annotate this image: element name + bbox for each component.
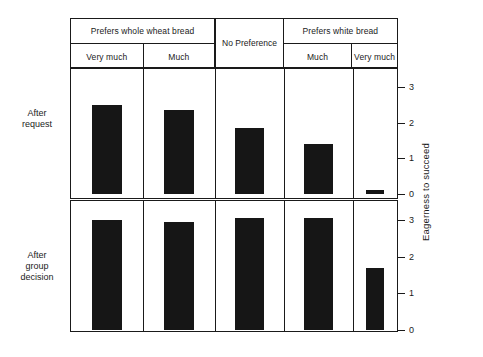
header-group-prefers-white-bread: Prefers white bread [283,19,397,43]
y-axis-tick-label: 0 [409,190,414,199]
bar [92,220,122,330]
header-sub-wheat-much: Much [143,44,215,69]
bar-chart-figure: Prefers whole wheat bread Prefers white … [0,0,483,357]
header-sub-wheat-very-much: Very much [71,44,143,69]
bar [92,105,122,194]
row-label-after-request-line1: After [6,108,68,119]
y-axis-tick-label: 2 [409,252,414,261]
bar [235,128,264,194]
y-axis-tick [398,220,405,221]
row-label-after-group-decision: After group decision [6,250,68,283]
row-label-after-request: After request [6,108,68,130]
bar [164,222,194,330]
row-label-after-group-decision-line3: decision [6,272,68,283]
column-separator [215,69,216,198]
y-axis-tick [398,257,405,258]
bar-group-after-group-decision [71,201,397,331]
y-axis-tick [398,330,405,331]
bar [366,268,384,330]
column-separator [143,69,144,198]
header-group-prefers-whole-wheat-bread: Prefers whole wheat bread [71,19,214,43]
y-axis-tick-label: 1 [409,154,414,163]
bar [164,110,194,194]
row-label-after-group-decision-line2: group [6,261,68,272]
row-label-after-request-line2: request [6,119,68,130]
y-axis-tick-label: 3 [409,216,414,225]
bar [304,144,333,194]
column-separator [143,201,144,331]
header-sub-white-very-much: Very much [351,44,397,69]
column-separator [284,201,285,331]
bar [304,218,333,330]
bar [366,190,384,194]
column-header-table: Prefers whole wheat bread Prefers white … [70,18,398,68]
row-label-after-group-decision-line1: After [6,250,68,261]
y-axis-tick [398,158,405,159]
y-axis-tick [398,123,405,124]
y-axis-title: Eagerness to succeed [418,112,432,272]
y-axis-tick-label: 0 [409,326,414,335]
column-separator [353,201,354,331]
bar [235,218,264,330]
y-axis-tick [398,293,405,294]
panel-after-request [70,68,398,199]
header-sub-white-much: Much [283,44,352,69]
bar-group-after-request [71,69,397,198]
y-axis-tick-label: 1 [409,289,414,298]
y-axis-tick [398,194,405,195]
column-separator [353,69,354,198]
y-axis-tick-label: 2 [409,118,414,127]
y-axis-tick [398,87,405,88]
y-axis-tick-label: 3 [409,83,414,92]
column-separator [215,201,216,331]
panel-after-group-decision [70,200,398,332]
header-group-no-preference: No Preference [215,19,284,67]
column-separator [284,69,285,198]
